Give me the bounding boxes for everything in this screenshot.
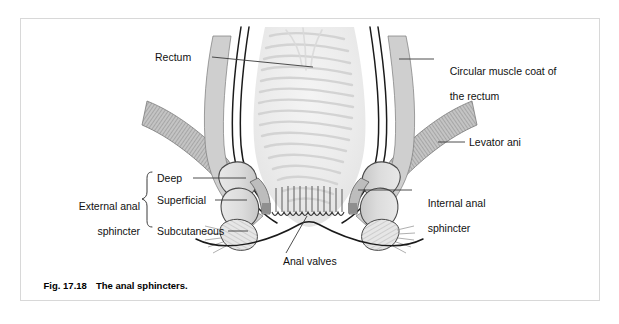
label-rectum: Rectum: [155, 51, 191, 64]
external-sphincter-brace: [142, 172, 152, 227]
figure-caption: Fig. 17.18The anal sphincters.: [33, 269, 188, 302]
label-circular-muscle-line1: Circular muscle coat of: [450, 65, 557, 77]
label-levator-ani: Levator ani: [469, 136, 521, 149]
label-superficial: Superficial: [157, 194, 206, 207]
label-subcutaneous: Subcutaneous: [157, 225, 224, 238]
label-external-anal-sphincter: External anal sphincter: [56, 187, 140, 250]
label-circular-muscle-coat: Circular muscle coat of the rectum: [438, 52, 556, 115]
label-circular-muscle-line2: the rectum: [450, 90, 500, 102]
label-external-sphincter-line1: External anal: [79, 200, 140, 212]
figure-caption-number: Fig. 17.18: [44, 280, 87, 291]
label-internal-sphincter-line2: sphincter: [428, 222, 471, 234]
label-internal-sphincter-line1: Internal anal: [428, 197, 486, 209]
figure-caption-text: The anal sphincters.: [96, 280, 188, 291]
label-deep: Deep: [157, 172, 182, 185]
figure-page: Rectum Circular muscle coat of the rectu…: [0, 0, 619, 324]
label-anal-valves: Anal valves: [283, 255, 337, 268]
label-internal-anal-sphincter: Internal anal sphincter: [416, 184, 485, 247]
label-external-sphincter-line2: sphincter: [97, 225, 140, 237]
rectal-lumen: [253, 27, 365, 227]
